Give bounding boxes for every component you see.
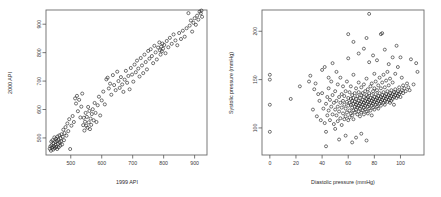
data-points-right	[268, 12, 419, 147]
scatter-plot-api-canvas: 500600700800900500600700800900 1999 API …	[0, 0, 220, 197]
svg-text:600: 600	[36, 105, 42, 114]
y-axis-title-right: Systolic pressure (mmHg)	[228, 52, 234, 114]
svg-text:700: 700	[128, 160, 137, 166]
svg-text:800: 800	[36, 48, 42, 57]
figure-container: 500600700800900500600700800900 1999 API …	[0, 0, 441, 197]
svg-text:100: 100	[252, 123, 258, 132]
svg-text:500: 500	[36, 133, 42, 142]
scatter-plot-api: 500600700800900500600700800900 1999 API …	[0, 0, 220, 197]
scatter-plot-bp-canvas: 020406080100100150200 Diastolic pressure…	[221, 0, 441, 197]
svg-text:200: 200	[252, 27, 258, 36]
svg-text:600: 600	[97, 160, 106, 166]
svg-text:500: 500	[66, 160, 75, 166]
svg-text:60: 60	[345, 160, 351, 166]
y-axis-title-left: 2000 API	[7, 72, 13, 94]
svg-text:20: 20	[293, 160, 299, 166]
svg-text:80: 80	[371, 160, 377, 166]
svg-text:900: 900	[190, 160, 199, 166]
svg-text:900: 900	[36, 20, 42, 29]
plot-frame-right	[262, 10, 424, 155]
svg-text:40: 40	[319, 160, 325, 166]
svg-text:700: 700	[36, 77, 42, 86]
scatter-plot-bp: 020406080100100150200 Diastolic pressure…	[221, 0, 441, 197]
data-points-left	[48, 9, 203, 152]
svg-text:100: 100	[396, 160, 405, 166]
x-axis-title-right: Diastolic pressure (mmHg)	[311, 179, 375, 185]
svg-text:0: 0	[268, 160, 271, 166]
plot-frame-left	[46, 10, 207, 155]
svg-text:150: 150	[252, 75, 258, 84]
x-axis-title-left: 1999 API	[116, 179, 138, 185]
svg-text:800: 800	[159, 160, 168, 166]
